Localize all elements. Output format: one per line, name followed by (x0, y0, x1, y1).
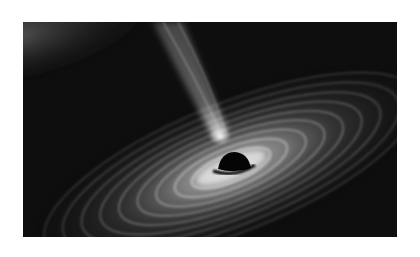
black-hole-image: Grayscale illustration of a black hole s… (23, 22, 397, 237)
black-hole-illustration (23, 22, 397, 237)
